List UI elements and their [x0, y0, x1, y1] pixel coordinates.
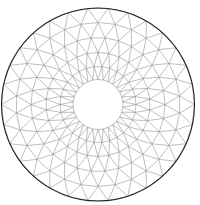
mesh-edge: [88, 187, 98, 201]
mesh-edge: [180, 105, 195, 114]
mesh-edge: [150, 110, 164, 118]
mesh-edge: [109, 152, 119, 155]
mesh-edge: [49, 112, 61, 120]
mesh-edge: [67, 127, 72, 133]
mesh-edge: [88, 9, 98, 23]
mesh-edge: [91, 38, 98, 53]
mesh-edge: [46, 88, 48, 99]
mesh-edge: [143, 154, 159, 159]
mesh-edge: [131, 171, 146, 180]
mesh-edge: [133, 112, 135, 120]
mesh-edge: [20, 77, 37, 79]
mesh-edge: [93, 80, 98, 81]
mesh-edge: [77, 41, 87, 54]
mesh-edge: [137, 55, 143, 70]
mesh-edge: [109, 155, 119, 168]
mesh-edge: [81, 24, 91, 38]
mesh-edge: [37, 38, 50, 49]
mesh-edge: [67, 76, 72, 82]
mesh-edge: [115, 13, 128, 25]
mesh-edge: [76, 88, 79, 92]
mesh-edge: [20, 130, 27, 146]
mesh-edge: [143, 144, 152, 154]
mesh-edge: [159, 159, 163, 176]
mesh-edge: [32, 118, 48, 120]
mesh-edge: [159, 64, 169, 78]
mesh-edge: [150, 91, 164, 99]
mesh-edge: [108, 9, 115, 25]
mesh-edge: [164, 113, 180, 118]
mesh-edge: [98, 23, 115, 25]
mesh-edge: [169, 130, 176, 146]
mesh-edge: [143, 38, 146, 55]
mesh-edge: [67, 57, 76, 62]
mesh-edge: [108, 72, 117, 82]
mesh-edge: [180, 84, 193, 95]
mesh-edge: [61, 107, 73, 112]
mesh-edge: [120, 92, 122, 97]
mesh-edge: [60, 105, 61, 113]
mesh-edge: [135, 88, 147, 96]
mesh-edge: [159, 118, 163, 131]
mesh-edge: [61, 89, 63, 97]
mesh-edge: [53, 55, 59, 70]
mesh-edge: [79, 72, 88, 82]
mesh-edge: [105, 171, 115, 185]
mesh-edge: [176, 130, 186, 144]
mesh-edge: [98, 38, 105, 53]
mesh-edge: [53, 55, 67, 63]
mesh-edge: [86, 54, 87, 69]
mesh-edge: [102, 129, 103, 142]
mesh-edge: [135, 97, 136, 105]
mesh-edge: [164, 91, 180, 96]
mesh-edge: [4, 125, 20, 130]
mesh-edge: [129, 82, 133, 89]
mesh-edge: [50, 154, 53, 171]
mesh-edge: [33, 159, 37, 176]
mesh-edge: [65, 179, 81, 184]
mesh-edge: [98, 187, 108, 201]
mesh-edge: [77, 38, 91, 41]
mesh-edge: [129, 120, 133, 127]
mesh-edge: [164, 91, 165, 105]
mesh-edge: [113, 84, 117, 88]
mesh-edge: [73, 107, 74, 112]
mesh-edge: [98, 185, 115, 187]
mesh-edge: [105, 38, 109, 54]
mesh-edge: [176, 113, 180, 130]
mesh-edge: [176, 125, 192, 130]
mesh-edge: [53, 154, 64, 162]
mesh-edge: [88, 127, 93, 129]
mesh-edge: [31, 105, 46, 110]
mesh-edge: [98, 80, 103, 81]
mesh-edge: [109, 54, 110, 69]
mesh-edge: [86, 141, 87, 156]
mesh-edge: [98, 155, 109, 156]
mesh-edge: [46, 110, 48, 121]
mesh-edge: [88, 80, 93, 82]
mesh-edge: [60, 102, 73, 105]
mesh-edge: [87, 38, 91, 54]
mesh-edge: [27, 132, 37, 146]
mesh-edge: [108, 82, 113, 85]
mesh-edge: [176, 79, 180, 96]
mesh-edge: [53, 131, 59, 140]
mesh-edge: [128, 13, 132, 30]
mesh-edge: [119, 163, 132, 169]
mesh-edge: [136, 105, 150, 110]
mesh-edge: [31, 91, 32, 105]
mesh-edge: [143, 131, 152, 144]
mesh-edge: [53, 139, 59, 154]
mesh-edge: [61, 112, 63, 120]
mesh-edge: [143, 121, 147, 131]
mesh-edge: [46, 110, 61, 112]
mesh-edge: [87, 155, 98, 156]
mesh-edge: [37, 50, 44, 65]
mesh-edge: [49, 79, 53, 89]
mesh-edge: [102, 67, 110, 69]
mesh-edge: [105, 24, 115, 38]
mesh-edges: [2, 9, 195, 201]
mesh-edge: [79, 137, 86, 140]
mesh-edge: [37, 131, 53, 132]
mesh-edge: [132, 154, 143, 162]
